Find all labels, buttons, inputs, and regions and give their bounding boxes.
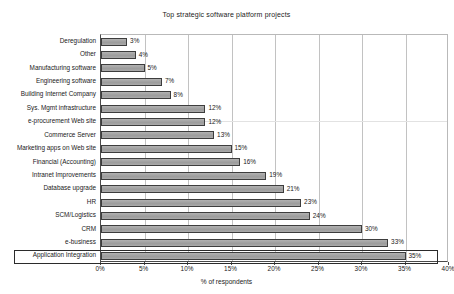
category-label: Manufacturing software — [0, 63, 96, 73]
category-label: e-business — [0, 237, 96, 247]
category-label: e-procurement Web site — [0, 116, 96, 126]
bar — [101, 118, 205, 126]
bar-value-label: 21% — [287, 184, 300, 194]
bar-row: 13% — [101, 129, 447, 142]
x-tick-label: 10% — [181, 265, 194, 272]
bar-row: 7% — [101, 75, 447, 88]
x-tick-label: 30% — [355, 265, 368, 272]
x-tick-label: 25% — [311, 265, 324, 272]
bar-row: 5% — [101, 62, 447, 75]
bar — [101, 199, 301, 207]
bar — [101, 91, 171, 99]
bar-row: 23% — [101, 196, 447, 209]
x-tick-label: 35% — [398, 265, 411, 272]
bar-value-label: 30% — [365, 224, 378, 234]
bar — [101, 225, 362, 233]
category-label: Engineering software — [0, 76, 96, 86]
x-axis-title: % of respondents — [0, 278, 453, 285]
bar-row: 15% — [101, 142, 447, 155]
bar-row: 8% — [101, 89, 447, 102]
bar-value-label: 7% — [165, 76, 174, 86]
bar-value-label: 12% — [208, 117, 221, 127]
category-label: Commerce Server — [0, 130, 96, 140]
bar — [101, 131, 214, 139]
category-label: Sys. Mgmt infrastructure — [0, 103, 96, 113]
bar-value-label: 23% — [304, 197, 317, 207]
category-label: CRM — [0, 224, 96, 234]
category-label: Intranet Improvements — [0, 170, 96, 180]
bar — [101, 172, 266, 180]
x-tick-label: 5% — [139, 265, 148, 272]
bar-value-label: 4% — [139, 50, 148, 60]
bar — [101, 51, 136, 59]
category-label: Marketing apps on Web site — [0, 143, 96, 153]
bar-value-label: 3% — [130, 36, 139, 46]
category-label: SCM/Logistics — [0, 210, 96, 220]
category-label: Application Integration — [0, 250, 96, 260]
bar-row: 24% — [101, 209, 447, 222]
bar-row: 30% — [101, 223, 447, 236]
x-tick-label: 0% — [95, 265, 104, 272]
bar-row: 12% — [101, 115, 447, 128]
bar — [101, 158, 240, 166]
bar-row: 35% — [101, 250, 447, 263]
category-label: Other — [0, 49, 96, 59]
x-tick-label: 40% — [442, 265, 454, 272]
chart-title: Top strategic software platform projects — [0, 11, 453, 18]
bar-value-label: 19% — [269, 170, 282, 180]
bar-value-label: 33% — [391, 237, 404, 247]
bar-row: 33% — [101, 236, 447, 249]
category-label: Financial (Accounting) — [0, 157, 96, 167]
bar-row: 21% — [101, 183, 447, 196]
bar — [101, 145, 232, 153]
x-tick-label: 20% — [268, 265, 281, 272]
bar-value-label: 35% — [409, 251, 422, 261]
bar-value-label: 15% — [235, 143, 248, 153]
bar-row: 12% — [101, 102, 447, 115]
bar — [101, 252, 406, 260]
bar-value-label: 8% — [174, 90, 183, 100]
category-label: Building Internet Company — [0, 89, 96, 99]
bar — [101, 64, 145, 72]
category-label: Database upgrade — [0, 183, 96, 193]
bar — [101, 212, 310, 220]
category-label: Deregulation — [0, 36, 96, 46]
plot-area: 3%4%5%7%8%12%12%13%15%16%19%21%23%24%30%… — [100, 34, 448, 262]
bar-row: 4% — [101, 48, 447, 61]
bar — [101, 239, 388, 247]
x-tick-label: 15% — [224, 265, 237, 272]
bar-value-label: 12% — [208, 103, 221, 113]
bar-row: 3% — [101, 35, 447, 48]
bar — [101, 38, 127, 46]
bar-value-label: 5% — [148, 63, 157, 73]
bar-row: 16% — [101, 156, 447, 169]
bar — [101, 78, 162, 86]
bar-value-label: 24% — [313, 211, 326, 221]
bar-row: 19% — [101, 169, 447, 182]
bar-value-label: 13% — [217, 130, 230, 140]
category-label: HR — [0, 197, 96, 207]
bar-value-label: 16% — [243, 157, 256, 167]
bar — [101, 105, 205, 113]
bar — [101, 185, 284, 193]
